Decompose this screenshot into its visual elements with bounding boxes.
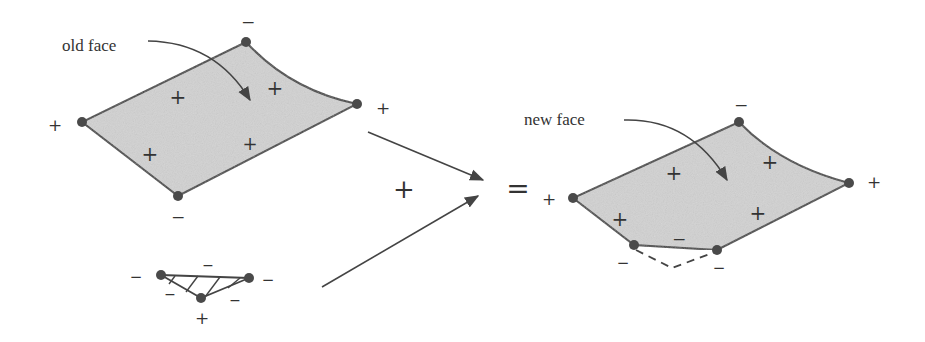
- interior-sign: +: [267, 76, 284, 100]
- vertex-dot: [712, 245, 722, 255]
- interior-sign: +: [762, 150, 779, 174]
- edge-sign: −: [229, 292, 241, 308]
- new-face: + − + − − + + + + − new face: [524, 95, 881, 277]
- vertex-dot: [244, 273, 254, 283]
- vertex-dot: [173, 191, 183, 201]
- vertex-dot: [629, 240, 639, 250]
- interior-sign: +: [612, 207, 629, 231]
- old-face-caption: old face: [62, 36, 116, 55]
- sign-label: −: [130, 268, 143, 286]
- arrow-from-triangle: [322, 196, 478, 287]
- sign-label: +: [195, 308, 209, 328]
- new-face-caption: new face: [524, 110, 585, 129]
- sign-label: −: [171, 207, 185, 227]
- vertex-dot: [568, 193, 578, 203]
- interior-sign: +: [242, 133, 257, 154]
- interior-sign: +: [750, 201, 767, 225]
- sign-label: +: [48, 115, 62, 135]
- combine-operators: + =: [322, 132, 530, 287]
- sign-label: −: [713, 259, 726, 277]
- interior-sign: +: [142, 142, 159, 166]
- interior-sign: −: [672, 229, 686, 249]
- plus-operator: +: [393, 174, 415, 204]
- triangle: − − + − − −: [130, 257, 275, 328]
- vertex-dot: [156, 270, 166, 280]
- vertex-dot: [734, 117, 744, 127]
- sign-label: +: [542, 189, 556, 209]
- sign-label: −: [734, 95, 748, 115]
- vertex-dot: [241, 37, 251, 47]
- sign-label: −: [241, 12, 255, 32]
- removed-triangle-dashed: [636, 250, 715, 268]
- diagram-svg: + − + − + + + + old face − − + − − − + =: [0, 0, 925, 342]
- sign-label: +: [376, 98, 390, 118]
- vertex-dot: [844, 178, 854, 188]
- sign-label: −: [617, 254, 630, 272]
- interior-sign: +: [170, 85, 187, 109]
- face-merge-diagram: + − + − + + + + old face − − + − − − + =: [0, 0, 925, 342]
- edge-sign: −: [202, 257, 214, 273]
- interior-sign: +: [666, 161, 683, 185]
- arrow-from-old-face: [368, 132, 483, 180]
- edge-sign: −: [164, 286, 176, 302]
- vertex-dot: [352, 99, 362, 109]
- equals-operator: =: [506, 172, 529, 205]
- vertex-dot: [196, 293, 206, 303]
- old-face: + − + − + + + + old face: [48, 12, 390, 227]
- vertex-dot: [77, 117, 87, 127]
- sign-label: −: [262, 271, 275, 289]
- sign-label: +: [867, 172, 881, 192]
